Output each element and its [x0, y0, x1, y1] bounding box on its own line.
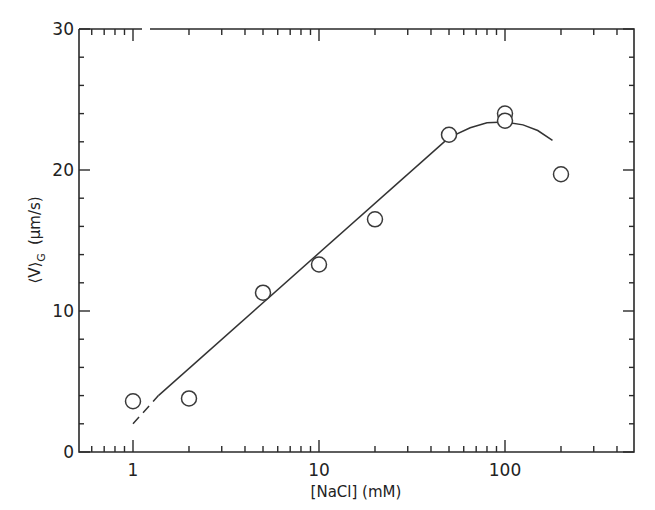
data-point — [256, 285, 271, 300]
y-axis-title-units: (μm/s) — [26, 196, 44, 245]
data-point — [181, 391, 196, 406]
y-axis-title-subscript: G — [35, 253, 48, 262]
frame-border — [79, 29, 634, 452]
data-point — [126, 394, 141, 409]
y-tick-label: 20 — [52, 160, 74, 180]
fit-lines — [133, 122, 552, 424]
y-tick-label: 30 — [52, 19, 74, 39]
plot-frame — [79, 29, 634, 452]
y-tick-label: 0 — [63, 442, 74, 462]
fit-linear-line — [158, 138, 449, 396]
y-axis-title: ⟨V⟩G(μm/s) — [26, 196, 48, 283]
x-tick-label: 1 — [128, 460, 139, 480]
x-axis-title: [NaCl] (mM) — [311, 483, 402, 501]
data-point — [553, 167, 568, 182]
chart: 1101000102030 [NaCl] (mM) ⟨V⟩G(μm/s) — [0, 0, 655, 510]
tick-labels: 1101000102030 — [52, 19, 521, 480]
y-tick-label: 10 — [52, 301, 74, 321]
axis-ticks — [79, 29, 634, 452]
x-tick-label: 10 — [308, 460, 330, 480]
data-point — [498, 113, 513, 128]
data-point — [442, 127, 457, 142]
data-points — [126, 106, 569, 409]
y-axis-title-main: ⟨V⟩ — [26, 262, 44, 284]
svg-text:⟨V⟩G(μm/s): ⟨V⟩G(μm/s) — [26, 196, 48, 283]
data-point — [367, 212, 382, 227]
x-tick-label: 100 — [489, 460, 521, 480]
data-point — [312, 257, 327, 272]
